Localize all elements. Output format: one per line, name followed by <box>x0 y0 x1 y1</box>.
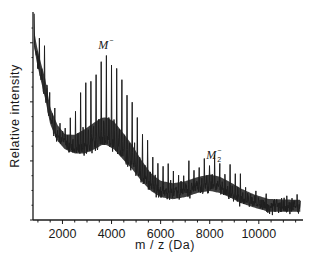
x-tick-label: 2000 <box>49 227 77 241</box>
annotation-M-minus: M− <box>97 37 113 52</box>
spectrum-dense-band <box>34 31 300 212</box>
annotation-superscript: − <box>217 147 221 154</box>
annotation-superscript: − <box>109 37 113 44</box>
annotation-label: M <box>97 38 109 52</box>
x-tick-label: 10000 <box>241 227 276 241</box>
mass-spectrum-chart: 200040006000800010000 m / z (Da) Relativ… <box>0 0 313 265</box>
annotation-label: M <box>205 148 217 162</box>
spectrum-trace <box>34 14 300 215</box>
x-tick-label: 4000 <box>98 227 126 241</box>
annotation-M2-minus: M−2 <box>205 147 221 163</box>
x-axis-title: m / z (Da) <box>135 238 195 252</box>
annotation-subscript: 2 <box>217 156 221 163</box>
x-tick-label: 8000 <box>196 227 224 241</box>
y-axis-title: Relative intensity <box>8 64 22 168</box>
